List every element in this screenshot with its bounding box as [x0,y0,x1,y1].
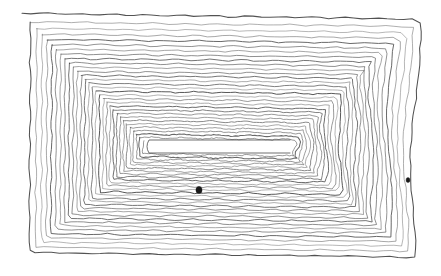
rectangular-spiral-drawing: small round ink blob below centresmall i… [0,0,441,276]
drawing-canvas: small round ink blob below centresmall i… [0,0,441,276]
right-edge-ink-blob: small ink blob on right edge lines [406,177,410,182]
center-ink-blob: small round ink blob below centre [196,186,202,193]
